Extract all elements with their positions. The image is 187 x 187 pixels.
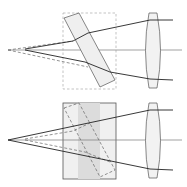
biconvex-lens (146, 13, 161, 88)
glass-block-band (78, 103, 100, 179)
optical-diagram (0, 0, 187, 187)
biconvex-lens (146, 103, 161, 178)
